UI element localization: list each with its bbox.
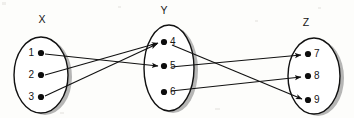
node-dot (305, 97, 311, 103)
set-z-label: Z (303, 16, 310, 28)
node-dot (305, 51, 311, 57)
node-dot (38, 50, 44, 56)
node-dot (161, 63, 167, 69)
node-label: 1 (28, 47, 34, 58)
node-label: 8 (314, 70, 320, 81)
diagram-canvas: X 1 2 3 Y 4 5 (0, 0, 354, 118)
node-label: 2 (28, 69, 34, 80)
set-group-z: Z 7 8 9 (288, 16, 344, 116)
node-label: 7 (314, 48, 320, 59)
node-dot (305, 73, 311, 79)
node-label: 9 (314, 94, 320, 105)
node-label: 3 (28, 91, 34, 102)
set-x-label: X (38, 13, 45, 25)
set-y-ellipse (144, 25, 194, 111)
node-dot (161, 89, 167, 95)
node-dot (161, 39, 167, 45)
node-label: 5 (170, 60, 176, 71)
set-group-y: Y 4 5 6 (144, 4, 198, 113)
node-dot (38, 94, 44, 100)
mapping-diagram: X 1 2 3 Y 4 5 (0, 0, 354, 118)
set-y-label: Y (160, 4, 167, 16)
node-dot (38, 72, 44, 78)
set-group-x: X 1 2 3 (14, 13, 72, 115)
